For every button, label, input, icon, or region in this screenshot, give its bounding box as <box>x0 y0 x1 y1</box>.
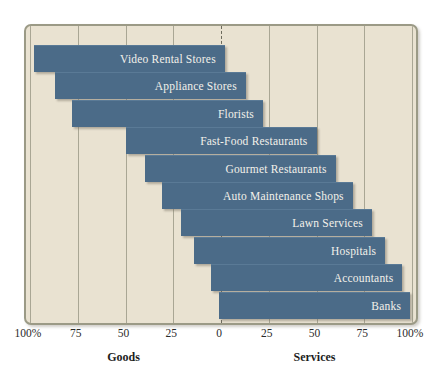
bar-label: Lawn Services <box>292 217 363 229</box>
bar-hospitals[interactable]: Hospitals <box>194 237 385 264</box>
bar-accountants[interactable]: Accountants <box>211 264 402 291</box>
bars-layer: Video Rental StoresAppliance StoresFlori… <box>26 26 416 323</box>
x-tick-0: 0 <box>216 327 222 339</box>
bar-label: Video Rental Stores <box>120 53 216 65</box>
bar-label: Gourmet Restaurants <box>225 163 326 175</box>
axis-title-goods: Goods <box>107 350 140 365</box>
bar-fast-food-restaurants[interactable]: Fast-Food Restaurants <box>126 127 317 154</box>
bar-label: Hospitals <box>331 245 376 257</box>
bar-label: Florists <box>218 108 254 120</box>
plot-frame: Video Rental StoresAppliance StoresFlori… <box>24 24 418 325</box>
bar-lawn-services[interactable]: Lawn Services <box>181 209 372 236</box>
goods-services-chart: Video Rental StoresAppliance StoresFlori… <box>0 0 441 389</box>
bar-label: Auto Maintenance Shops <box>223 190 344 202</box>
x-tick-25: 25 <box>261 327 273 339</box>
bar-florists[interactable]: Florists <box>72 100 263 127</box>
bar-banks[interactable]: Banks <box>219 292 410 319</box>
bar-label: Appliance Stores <box>155 80 237 92</box>
x-axis-ticks: 100%7550250255075100% <box>24 327 418 349</box>
bar-gourmet-restaurants[interactable]: Gourmet Restaurants <box>145 155 336 182</box>
x-tick-50: 50 <box>118 327 130 339</box>
bar-auto-maintenance-shops[interactable]: Auto Maintenance Shops <box>162 182 353 209</box>
x-tick-75: 75 <box>357 327 369 339</box>
x-tick-25: 25 <box>166 327 178 339</box>
bar-label: Banks <box>371 300 401 312</box>
x-tick-100pct: 100% <box>15 327 42 339</box>
bar-video-rental-stores[interactable]: Video Rental Stores <box>34 45 225 72</box>
axis-group-titles: Goods Services <box>24 350 418 370</box>
axis-title-services: Services <box>294 350 336 365</box>
x-tick-50: 50 <box>309 327 321 339</box>
bar-label: Accountants <box>334 272 394 284</box>
x-tick-100pct: 100% <box>397 327 424 339</box>
bar-label: Fast-Food Restaurants <box>200 135 307 147</box>
x-tick-75: 75 <box>70 327 82 339</box>
bar-appliance-stores[interactable]: Appliance Stores <box>55 72 246 99</box>
